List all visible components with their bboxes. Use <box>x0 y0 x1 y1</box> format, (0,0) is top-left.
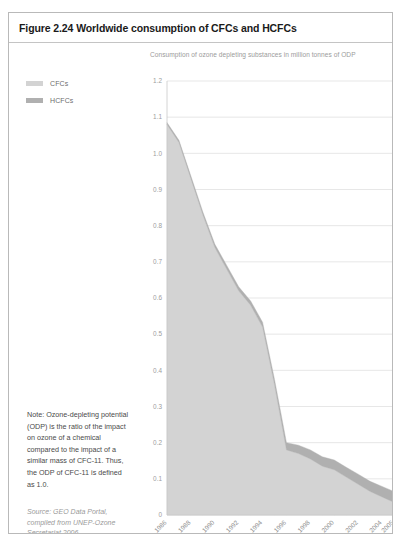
chart-source: Source: GEO Data Portal, compiled from U… <box>27 507 130 534</box>
y-tick-label: 0.3 <box>153 403 162 410</box>
y-tick-label: 0.5 <box>153 330 162 337</box>
legend-swatch-cfcs <box>26 81 43 86</box>
x-tick-label: 2000 <box>320 518 335 533</box>
x-tick-label: 1988 <box>177 518 192 533</box>
x-tick-label: 1998 <box>296 518 311 533</box>
x-tick-label: 2002 <box>344 518 359 533</box>
stacked-area-chart: 1.21.11.00.90.80.70.60.50.40.30.20.10 19… <box>137 71 393 534</box>
x-tick-label: 1986 <box>153 518 168 533</box>
chart-plot-area: 1.21.11.00.90.80.70.60.50.40.30.20.10 19… <box>137 71 393 534</box>
x-axis-tick-labels: 1986198819901992199419961998200020022004… <box>153 518 393 533</box>
y-tick-label: 0.8 <box>153 222 162 229</box>
figure-card: Figure 2.24 Worldwide consumption of CFC… <box>8 12 393 534</box>
x-tick-label: 2004 <box>368 518 383 533</box>
y-tick-label: 1.0 <box>153 150 162 157</box>
y-tick-label: 0.6 <box>153 294 162 301</box>
y-tick-label: 0.9 <box>153 186 162 193</box>
x-tick-label: 1996 <box>272 518 287 533</box>
legend-item-hcfcs: HCFCs <box>26 94 136 107</box>
area-series-cfcs <box>167 124 393 515</box>
y-tick-label: 0.1 <box>153 475 162 482</box>
y-tick-label: 0 <box>158 511 162 518</box>
title-divider <box>9 42 392 43</box>
chart-subtitle: Consumption of ozone depleting substance… <box>150 51 393 58</box>
legend-label-cfcs: CFCs <box>50 80 68 87</box>
legend-item-cfcs: CFCs <box>26 77 136 90</box>
page-title: Figure 2.24 Worldwide consumption of CFC… <box>19 22 379 34</box>
x-tick-label: 1994 <box>248 518 263 533</box>
y-tick-label: 1.1 <box>153 113 162 120</box>
x-tick-label: 1992 <box>224 518 239 533</box>
y-tick-label: 1.2 <box>153 77 162 84</box>
x-tick-label: 1990 <box>200 518 215 533</box>
y-axis-tick-labels: 1.21.11.00.90.80.70.60.50.40.30.20.10 <box>153 77 162 518</box>
x-tick-label: 2005 <box>380 518 393 533</box>
chart-note: Note: Ozone-depleting potential (ODP) is… <box>27 409 130 490</box>
y-tick-label: 0.7 <box>153 258 162 265</box>
legend-label-hcfcs: HCFCs <box>50 97 73 104</box>
area-series-group <box>167 123 393 515</box>
y-tick-label: 0.4 <box>153 367 162 374</box>
y-tick-label: 0.2 <box>153 439 162 446</box>
chart-legend: CFCs HCFCs <box>26 77 136 111</box>
legend-swatch-hcfcs <box>26 98 43 103</box>
